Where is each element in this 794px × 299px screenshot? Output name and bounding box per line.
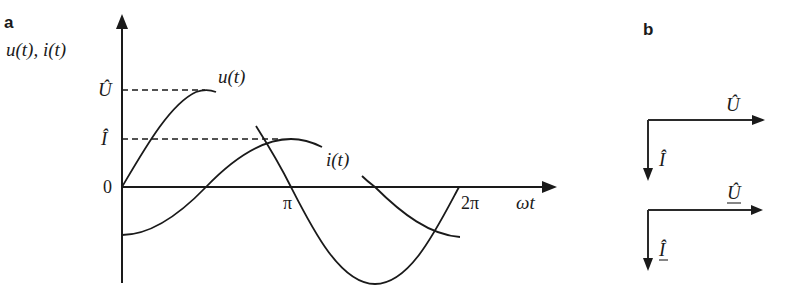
complex-voltage-phasor-arrow-icon: [751, 205, 763, 215]
complex-voltage-label: Û: [727, 182, 742, 203]
origin-label: 0: [103, 177, 112, 197]
complex-current-phasor-arrow-icon: [643, 258, 653, 271]
u-curve-label: u(t): [218, 66, 245, 88]
phasor-diagram-1: Û Î: [643, 94, 765, 181]
panel-a-label: a: [4, 13, 14, 32]
current-phasor-arrow-icon: [643, 168, 653, 181]
phasor-diagram-2: Û Î: [643, 182, 763, 271]
current-phasor-label: Î: [658, 149, 667, 170]
two-pi-tick-label: 2π: [461, 193, 479, 213]
i-curve-segment-2: [362, 176, 460, 237]
x-axis-label: ωt: [516, 192, 535, 213]
figure: a u(t), i(t) Û Î 0 π 2π ωt u(t) i(t) b Û…: [0, 0, 794, 299]
y-axis-label: u(t), i(t): [6, 39, 66, 61]
u-amplitude-label: Û: [98, 79, 113, 100]
i-amplitude-label: Î: [100, 128, 109, 149]
panel-b-label: b: [643, 20, 653, 39]
y-axis-arrow-icon: [116, 14, 128, 29]
x-axis-arrow-icon: [542, 181, 557, 193]
voltage-phasor-arrow-icon: [752, 115, 765, 125]
voltage-phasor-label: Û: [726, 94, 741, 115]
i-curve-label: i(t): [326, 149, 349, 171]
pi-tick-label: π: [283, 193, 292, 213]
complex-current-label: Î: [658, 239, 667, 260]
